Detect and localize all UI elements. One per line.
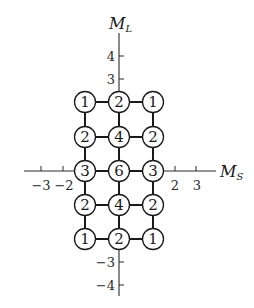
term-diagram: 4 3 −3 −4 −3 −2 2 3 ML MS 1 2 1 2 4 2 3 … <box>0 0 254 308</box>
svg-text:2: 2 <box>114 93 124 111</box>
node: 1 <box>143 229 164 250</box>
svg-text:2: 2 <box>114 230 124 248</box>
ml-axis-label: ML <box>108 14 132 34</box>
node: 3 <box>143 161 164 182</box>
ms-axis-label: MS <box>219 162 243 182</box>
node: 2 <box>75 195 96 216</box>
ml-tick-label-3: 3 <box>107 72 115 87</box>
node: 1 <box>143 92 164 113</box>
svg-text:6: 6 <box>114 162 124 180</box>
node: 4 <box>109 195 130 216</box>
ml-tick-label-neg3: −3 <box>96 255 115 270</box>
svg-text:4: 4 <box>114 196 124 214</box>
svg-text:2: 2 <box>80 128 90 146</box>
ms-tick-label-neg2: −2 <box>54 178 73 193</box>
svg-text:1: 1 <box>148 93 158 111</box>
svg-text:2: 2 <box>148 128 158 146</box>
node: 2 <box>109 229 130 250</box>
svg-text:2: 2 <box>80 196 90 214</box>
svg-text:3: 3 <box>80 162 90 180</box>
node: 2 <box>143 127 164 148</box>
node: 2 <box>75 127 96 148</box>
node: 3 <box>75 161 96 182</box>
node: 4 <box>109 127 130 148</box>
svg-text:1: 1 <box>80 230 90 248</box>
svg-text:1: 1 <box>80 93 90 111</box>
ms-tick-label-neg3: −3 <box>31 178 50 193</box>
ms-tick-label-2: 2 <box>171 178 179 193</box>
ml-tick-label-neg4: −4 <box>96 278 115 293</box>
node: 1 <box>75 92 96 113</box>
node: 2 <box>109 92 130 113</box>
node: 6 <box>109 161 130 182</box>
node: 2 <box>143 195 164 216</box>
svg-text:2: 2 <box>148 196 158 214</box>
ms-tick-label-3: 3 <box>193 178 201 193</box>
ml-tick-label-4: 4 <box>107 49 115 64</box>
svg-text:1: 1 <box>148 230 158 248</box>
node: 1 <box>75 229 96 250</box>
svg-text:3: 3 <box>148 162 158 180</box>
svg-text:4: 4 <box>114 128 124 146</box>
